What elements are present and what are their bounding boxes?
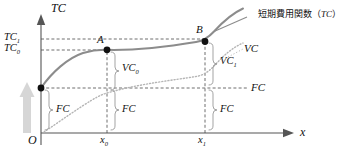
bracket-label-vc1: VC1: [220, 56, 237, 69]
vertical-gray-arrow: [20, 82, 35, 133]
bracket-label-vc0-sub: 0: [135, 68, 138, 75]
bracket-fc-mid: [111, 90, 119, 130]
y-axis-label: TC: [51, 2, 66, 14]
bracket-fc-left: [45, 90, 53, 130]
x-tick-x1-sub: 1: [203, 140, 206, 147]
fc-intercept-point: [38, 85, 45, 92]
vc-curve-label: VC: [244, 43, 258, 54]
point-a-marker: [104, 46, 111, 53]
y-tick-tc0: TC0: [4, 43, 20, 56]
y-tick-tc1-base: TC: [4, 31, 17, 42]
tc-curve-label-text: 短期費用関数（: [258, 9, 321, 19]
point-b-label: B: [196, 24, 203, 35]
y-tick-tc0-sub: 0: [17, 48, 20, 55]
tc-curve-label: 短期費用関数（TC）: [258, 10, 340, 19]
bracket-vc1: [209, 43, 217, 85]
x-tick-x1: x1: [198, 135, 206, 148]
x-tick-x0: x0: [100, 135, 108, 148]
bracket-vc0: [111, 52, 119, 90]
bracket-label-fc-right: FC: [220, 104, 233, 115]
bracket-label-fc-mid: FC: [122, 104, 135, 115]
tc-label-leader: [214, 17, 247, 32]
x-axis: [41, 129, 294, 138]
fc-line-label: FC: [251, 82, 265, 93]
bracket-label-vc1-base: VC: [220, 55, 233, 66]
point-a-label: A: [97, 34, 104, 45]
bracket-fc-right: [209, 90, 217, 130]
bracket-label-fc-left: FC: [56, 104, 69, 115]
x-tick-x0-sub: 0: [105, 140, 108, 147]
bracket-label-vc1-sub: 1: [233, 61, 236, 68]
tc-curve-label-tail: ）: [332, 9, 340, 19]
point-b-marker: [202, 38, 209, 45]
tc-curve-label-italic: TC: [321, 9, 332, 19]
bracket-label-vc0-base: VC: [122, 62, 135, 73]
x-axis-label: x: [300, 126, 305, 138]
bracket-label-vc0: VC0: [122, 63, 139, 76]
y-tick-tc0-base: TC: [4, 42, 17, 53]
origin-label: O: [28, 134, 37, 146]
y-axis: [37, 14, 45, 145]
guide-lines: [41, 39, 247, 133]
